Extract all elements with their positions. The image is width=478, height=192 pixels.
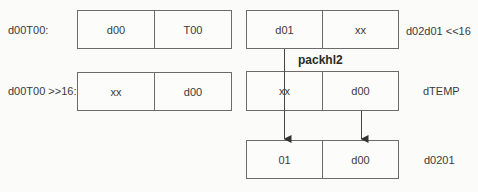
- register-cell-high: xx: [247, 72, 322, 110]
- register-d0201: 01 d00: [246, 140, 399, 179]
- operation-label-packhl2: packhl2: [298, 53, 343, 67]
- register-cell-low: T00: [154, 11, 231, 48]
- register-cell-low: d00: [322, 141, 398, 178]
- register-label-dTEMP: dTEMP: [423, 85, 460, 97]
- register-cell-low: xx: [322, 11, 398, 48]
- register-cell-high: xx: [78, 73, 154, 110]
- register-dTEMP: xx d00: [246, 71, 399, 111]
- register-d00T00-shr16: xx d00: [77, 72, 232, 111]
- register-label-d00T00-shr16: d00T00 >>16:: [8, 85, 77, 97]
- register-cell-low: d00: [322, 72, 398, 110]
- register-cell-high: 01: [247, 141, 322, 178]
- register-label-d00T00: d00T00:: [8, 24, 48, 36]
- register-cell-high: d00: [78, 11, 154, 48]
- register-d00T00: d00 T00: [77, 10, 232, 49]
- register-label-d0201: d0201: [424, 154, 455, 166]
- packhl2-diagram: d00T00: d00T00 >>16: d00 T00 xx d00 d01 …: [0, 0, 478, 192]
- register-cell-low: d00: [154, 73, 231, 110]
- register-label-d02d01-shl16: d02d01 <<16: [406, 25, 471, 37]
- register-d02d01-shl16: d01 xx: [246, 10, 399, 49]
- register-cell-high: d01: [247, 11, 322, 48]
